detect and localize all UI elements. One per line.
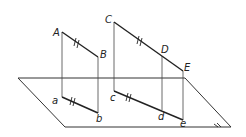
label-B: B [100, 49, 107, 60]
segment-AB [62, 32, 98, 57]
label-a: a [52, 95, 58, 106]
segment-ab [62, 97, 98, 113]
label-e: e [180, 118, 186, 129]
plane-hatch [214, 123, 221, 127]
label-E: E [184, 62, 191, 73]
segment-ce [114, 91, 183, 120]
label-D: D [161, 44, 169, 55]
label-C: C [105, 14, 112, 25]
tick-AB [74, 38, 79, 48]
tick-CD [137, 36, 142, 46]
label-A: A [52, 27, 60, 38]
projection-diagram: A B C D E a b c d e [0, 0, 246, 137]
label-d: d [158, 111, 165, 122]
projection-plane [18, 78, 231, 127]
segment-CE [114, 22, 183, 71]
label-b: b [96, 113, 102, 124]
label-c: c [110, 92, 116, 103]
